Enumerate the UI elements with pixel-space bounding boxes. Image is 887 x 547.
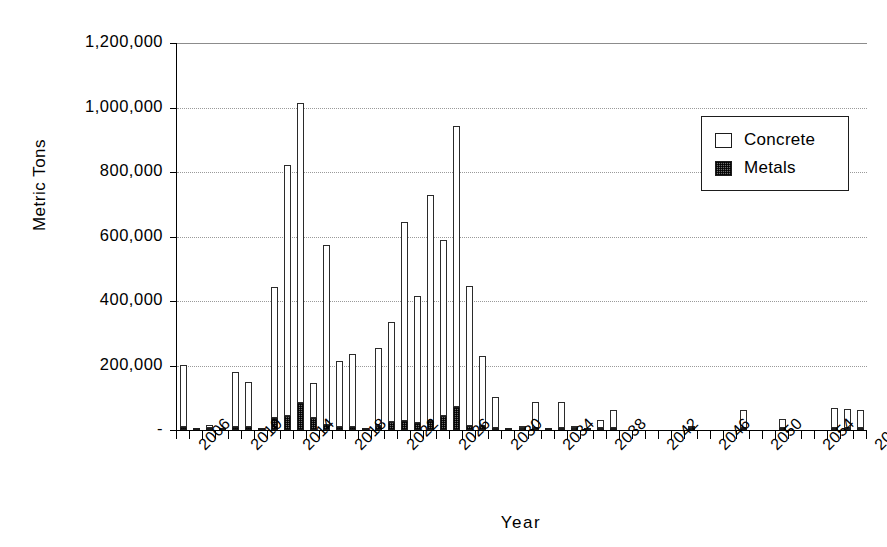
bar-segment-metals xyxy=(558,428,565,431)
bar-chart: Metric Tons -200,000400,000600,000800,00… xyxy=(0,0,887,547)
x-tick-label: 2014 xyxy=(299,441,312,454)
bar-segment-concrete xyxy=(453,126,460,407)
bar-segment-metals xyxy=(505,428,512,431)
bar-segment-metals xyxy=(297,403,304,430)
bar-column xyxy=(271,287,278,430)
bar-column xyxy=(193,429,200,431)
x-tick-mark xyxy=(501,431,502,439)
bar-segment-concrete xyxy=(492,397,499,428)
y-tick-label: 200,000 xyxy=(33,355,163,374)
bar-segment-concrete xyxy=(336,361,343,427)
bar-segment-concrete xyxy=(440,240,447,416)
x-tick-mark xyxy=(749,431,750,439)
bar-column xyxy=(401,222,408,430)
x-tick-mark xyxy=(593,431,594,439)
bar-column xyxy=(545,429,552,431)
bars-layer xyxy=(177,43,867,430)
bar-column xyxy=(505,429,512,431)
x-axis-tick-labels: 2006201020142018202220262030203420382042… xyxy=(176,441,866,511)
bar-segment-metals xyxy=(453,407,460,430)
x-tick-label: 2034 xyxy=(559,441,572,454)
bar-column xyxy=(414,296,421,430)
x-tick-mark xyxy=(645,431,646,439)
bar-segment-concrete xyxy=(466,286,473,426)
x-tick-mark xyxy=(488,431,489,439)
x-tick-label: 2010 xyxy=(247,441,260,454)
bar-column xyxy=(297,103,304,430)
bar-segment-concrete xyxy=(232,372,239,427)
y-tick-label: 600,000 xyxy=(33,226,163,245)
x-tick-mark xyxy=(710,431,711,439)
bar-column xyxy=(180,365,187,430)
x-tick-mark xyxy=(189,431,190,439)
bar-segment-metals xyxy=(232,427,239,430)
x-tick-mark xyxy=(436,431,437,439)
legend-item-metals: Metals xyxy=(715,154,848,182)
legend: Concrete Metals xyxy=(701,116,849,191)
x-tick-mark xyxy=(853,431,854,439)
x-axis-title: Year xyxy=(176,513,866,533)
bar-segment-concrete xyxy=(414,296,421,423)
bar-segment-metals xyxy=(180,427,187,430)
x-tick-mark xyxy=(606,431,607,439)
bar-column xyxy=(558,404,565,430)
bar-column xyxy=(388,322,395,430)
bar-segment-metals xyxy=(597,428,604,431)
x-tick-label: 2042 xyxy=(663,441,676,454)
bar-column xyxy=(492,398,499,430)
x-tick-label: 2046 xyxy=(715,441,728,454)
x-tick-mark xyxy=(541,431,542,439)
x-tick-label: 2030 xyxy=(507,441,520,454)
x-tick-mark xyxy=(345,431,346,439)
bar-segment-metals xyxy=(401,421,408,430)
y-tick-label: 1,200,000 xyxy=(33,32,163,51)
bar-segment-concrete xyxy=(310,383,317,418)
legend-swatch-concrete-icon xyxy=(715,133,732,148)
legend-label-metals: Metals xyxy=(744,158,796,178)
bar-segment-concrete xyxy=(427,195,434,421)
bar-segment-metals xyxy=(857,428,864,431)
bar-segment-metals xyxy=(349,427,356,430)
bar-segment-concrete xyxy=(558,402,565,427)
legend-swatch-metals-icon xyxy=(715,161,732,176)
bar-segment-metals xyxy=(284,416,291,430)
x-tick-mark xyxy=(228,431,229,439)
x-tick-mark xyxy=(866,431,867,439)
y-tick-mark xyxy=(170,237,177,238)
y-tick-mark xyxy=(170,108,177,109)
bar-segment-metals xyxy=(336,427,343,430)
bar-segment-concrete xyxy=(180,365,187,427)
x-tick-mark xyxy=(280,431,281,439)
x-tick-label: 2038 xyxy=(611,441,624,454)
x-tick-label: 2050 xyxy=(767,441,780,454)
legend-item-concrete: Concrete xyxy=(715,126,848,154)
x-tick-label: 2022 xyxy=(403,441,416,454)
y-tick-label: 1,000,000 xyxy=(33,97,163,116)
x-tick-label: 2058 xyxy=(871,441,884,454)
x-tick-mark xyxy=(814,431,815,439)
y-tick-mark xyxy=(170,366,177,367)
x-tick-mark xyxy=(697,431,698,439)
x-tick-mark xyxy=(241,431,242,439)
bar-segment-concrete xyxy=(245,382,252,427)
bar-segment-concrete xyxy=(271,287,278,418)
bar-column xyxy=(466,286,473,430)
bar-column xyxy=(610,411,617,430)
bar-segment-concrete xyxy=(597,420,604,427)
x-tick-mark xyxy=(554,431,555,439)
x-tick-mark xyxy=(332,431,333,439)
y-tick-label: - xyxy=(33,419,163,438)
x-tick-label: 2054 xyxy=(819,441,832,454)
x-tick-mark xyxy=(449,431,450,439)
bar-segment-concrete xyxy=(610,410,617,428)
bar-segment-metals xyxy=(245,427,252,430)
bar-column xyxy=(232,372,239,430)
x-tick-mark xyxy=(293,431,294,439)
bar-segment-metals xyxy=(492,428,499,431)
bar-column xyxy=(336,361,343,430)
bar-column xyxy=(857,411,864,430)
bar-column xyxy=(349,354,356,430)
bar-segment-concrete xyxy=(323,245,330,426)
x-tick-mark xyxy=(762,431,763,439)
y-tick-label: 400,000 xyxy=(33,290,163,309)
